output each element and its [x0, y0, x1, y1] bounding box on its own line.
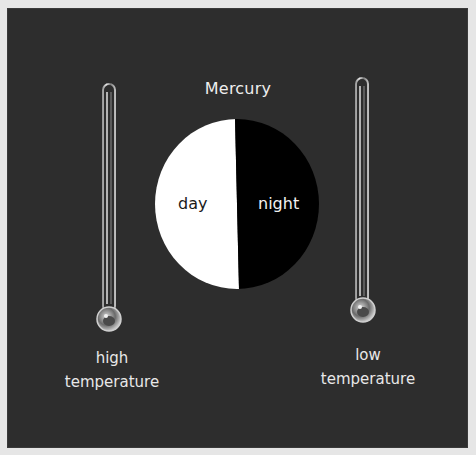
thermometer-icon: [96, 82, 126, 336]
thermometer-icon: [350, 76, 380, 330]
high-temperature-caption: high temperature: [62, 346, 162, 394]
caption-line-2: temperature: [318, 367, 418, 391]
day-label: day: [178, 194, 207, 213]
high-temperature-thermometer: [96, 82, 126, 336]
diagram-title: Mercury: [0, 79, 476, 98]
title-text: Mercury: [205, 79, 271, 98]
caption-line-1: low: [318, 343, 418, 367]
low-temperature-thermometer: [350, 76, 380, 330]
night-label: night: [258, 194, 299, 213]
low-temperature-caption: low temperature: [318, 343, 418, 391]
caption-line-1: high: [62, 346, 162, 370]
caption-line-2: temperature: [62, 370, 162, 394]
